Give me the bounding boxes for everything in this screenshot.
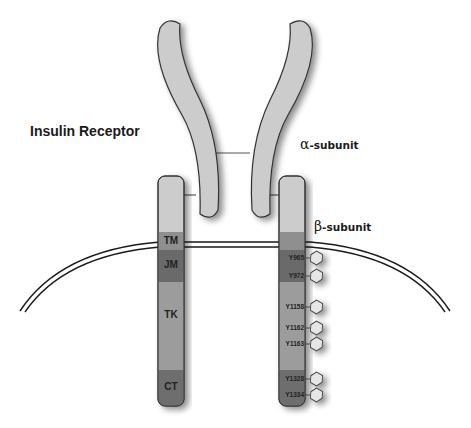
phosphate-groups [305,250,325,404]
site-label-y1163: Y1163 [278,340,304,347]
beta-subunit-text: -subunit [322,221,371,233]
phosphate-hexagon-y1163 [305,336,325,353]
site-label-y1328: Y1328 [278,375,304,382]
phosphate-hexagon-y1158 [305,299,325,316]
beta-subunit-label: β-subunit [314,218,371,234]
insulin-receptor-diagram [0,0,471,428]
site-label-y1162: Y1162 [278,324,304,331]
domain-label-tm: TM [158,235,184,246]
cell-membrane [20,242,450,312]
phosphate-hexagon-y1162 [305,320,325,337]
site-label-y972: Y972 [278,272,304,279]
diagram-title: Insulin Receptor [30,123,140,139]
phosphate-hexagon-y965 [305,250,325,267]
alpha-subunit-text: -subunit [309,139,358,151]
domain-label-ct: CT [158,381,184,392]
beta-subunit-right [279,176,305,406]
phosphate-hexagon-y1334 [305,387,325,404]
beta-symbol: β [314,218,322,234]
site-label-y965: Y965 [278,254,304,261]
domain-label-jm: JM [158,259,184,270]
beta-subunit-left [158,176,184,406]
phosphate-hexagon-y972 [305,268,325,285]
site-label-y1334: Y1334 [278,391,304,398]
site-label-y1158: Y1158 [278,303,304,310]
domain-label-tk: TK [158,309,184,320]
phosphate-hexagon-y1328 [305,371,325,388]
alpha-subunit-label: α-subunit [300,136,359,152]
